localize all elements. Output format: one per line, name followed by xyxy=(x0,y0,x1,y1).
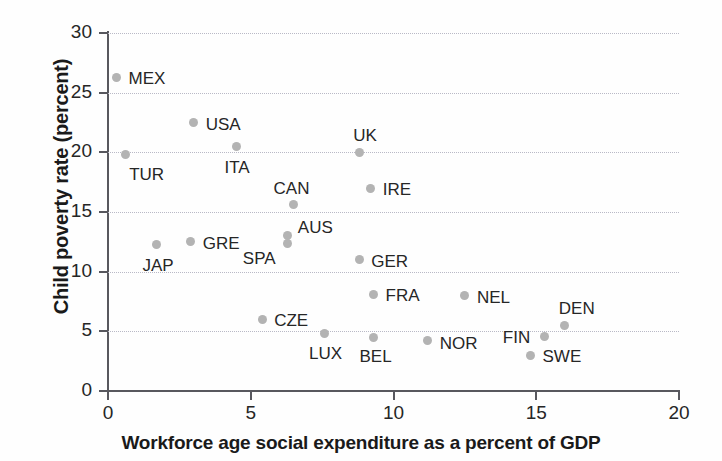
point-label-uk: UK xyxy=(353,126,377,146)
point-label-jap: JAP xyxy=(143,256,174,276)
data-point-ita xyxy=(232,142,241,151)
point-label-fra: FRA xyxy=(386,286,420,306)
y-tick-15 xyxy=(99,211,108,213)
x-axis-title: Workforce age social expenditure as a pe… xyxy=(0,432,722,454)
point-label-ger: GER xyxy=(371,252,408,272)
y-tick-label-0: 0 xyxy=(52,379,92,401)
y-tick-label-20: 20 xyxy=(52,140,92,162)
point-label-fin: FIN xyxy=(503,328,530,348)
point-label-usa: USA xyxy=(206,115,241,135)
gridline-y-30 xyxy=(108,33,679,34)
gridline-y-25 xyxy=(108,93,679,94)
x-tick-label-10: 10 xyxy=(372,402,416,424)
point-label-cze: CZE xyxy=(274,311,308,331)
data-point-bel xyxy=(369,333,378,342)
data-point-fin xyxy=(540,332,549,341)
scatter-plot-figure: Child poverty rate (percent) Workforce a… xyxy=(0,0,722,461)
data-point-tur xyxy=(121,150,130,159)
x-tick-20 xyxy=(678,391,680,400)
x-tick-0 xyxy=(107,391,109,400)
point-label-spa: SPA xyxy=(243,249,276,269)
data-point-fra xyxy=(369,290,378,299)
y-tick-5 xyxy=(99,330,108,332)
point-label-swe: SWE xyxy=(543,347,582,367)
y-tick-label-25: 25 xyxy=(52,81,92,103)
point-label-can: CAN xyxy=(274,179,310,199)
point-label-aus: AUS xyxy=(298,218,333,238)
data-point-jap xyxy=(152,240,161,249)
plot-area xyxy=(108,33,679,391)
y-tick-25 xyxy=(99,92,108,94)
point-label-gre: GRE xyxy=(203,234,240,254)
point-label-lux: LUX xyxy=(309,344,342,364)
gridline-y-20 xyxy=(108,152,679,153)
data-point-mex xyxy=(112,73,121,82)
data-point-uk xyxy=(355,148,364,157)
y-tick-label-30: 30 xyxy=(52,21,92,43)
y-tick-20 xyxy=(99,151,108,153)
y-tick-label-15: 15 xyxy=(52,200,92,222)
y-tick-label-5: 5 xyxy=(52,319,92,341)
y-tick-30 xyxy=(99,32,108,34)
point-label-ita: ITA xyxy=(224,158,249,178)
y-axis-title: Child poverty rate (percent) xyxy=(50,22,73,352)
point-label-bel: BEL xyxy=(360,347,392,367)
x-tick-label-20: 20 xyxy=(657,402,701,424)
x-tick-10 xyxy=(393,391,395,400)
data-point-ger xyxy=(355,255,364,264)
x-tick-5 xyxy=(250,391,252,400)
y-tick-10 xyxy=(99,271,108,273)
point-label-tur: TUR xyxy=(129,165,164,185)
x-tick-15 xyxy=(535,391,537,400)
point-label-nor: NOR xyxy=(440,334,478,354)
point-label-den: DEN xyxy=(559,299,595,319)
y-tick-label-10: 10 xyxy=(52,260,92,282)
point-label-ire: IRE xyxy=(383,180,411,200)
data-point-swe xyxy=(526,351,535,360)
gridline-y-5 xyxy=(108,331,679,332)
point-label-nel: NEL xyxy=(477,288,510,308)
point-label-mex: MEX xyxy=(129,69,166,89)
x-tick-label-15: 15 xyxy=(514,402,558,424)
gridline-y-15 xyxy=(108,212,679,213)
x-tick-label-0: 0 xyxy=(86,402,130,424)
gridline-y-10 xyxy=(108,272,679,273)
x-tick-label-5: 5 xyxy=(229,402,273,424)
data-point-cze xyxy=(258,315,267,324)
data-point-ire xyxy=(366,184,375,193)
